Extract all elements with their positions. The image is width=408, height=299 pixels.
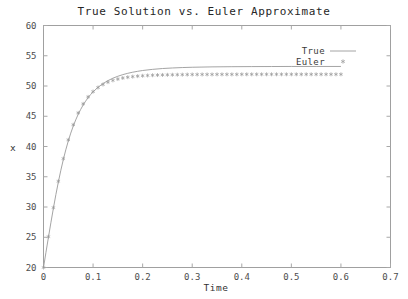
plot-frame <box>44 26 391 268</box>
euler-data-point <box>126 75 129 79</box>
euler-data-point <box>62 157 65 161</box>
euler-data-point <box>156 73 159 77</box>
chart-canvas: True Solution vs. Euler Approximate 00.1… <box>0 0 408 299</box>
euler-data-point <box>260 72 263 76</box>
euler-data-point <box>131 75 134 79</box>
x-axis-title: Time <box>204 282 229 293</box>
y-tick-label: 55 <box>26 51 37 61</box>
x-tick-label: 0 <box>41 272 46 282</box>
euler-data-point <box>309 72 312 76</box>
euler-data-point <box>220 72 223 76</box>
series-euler-points <box>42 72 343 269</box>
euler-data-point <box>225 72 228 76</box>
legend-label-euler: Euler <box>296 57 325 67</box>
x-axis-tick-labels: 00.10.20.30.40.50.60.7 <box>41 272 399 282</box>
euler-data-point <box>230 72 233 76</box>
x-tick-label: 0.3 <box>184 272 200 282</box>
euler-data-point <box>166 73 169 77</box>
y-tick-label: 30 <box>26 202 37 212</box>
x-tick-label: 0.2 <box>135 272 151 282</box>
euler-data-point <box>52 206 55 210</box>
euler-data-point <box>176 73 179 77</box>
x-tick-label: 0.5 <box>283 272 299 282</box>
y-axis-title: x <box>10 142 16 153</box>
euler-data-point <box>334 72 337 76</box>
euler-data-point <box>161 73 164 77</box>
legend-sample-asterisk <box>341 59 345 63</box>
euler-data-point <box>285 72 288 76</box>
euler-data-point <box>290 72 293 76</box>
y-axis-tick-labels: 202530354045505560 <box>26 21 37 273</box>
euler-data-point <box>205 72 208 76</box>
euler-data-point <box>195 73 198 77</box>
euler-data-point <box>151 73 154 77</box>
x-tick-label: 0.7 <box>382 272 398 282</box>
euler-data-point <box>136 74 139 78</box>
euler-data-point <box>235 72 238 76</box>
euler-data-point <box>339 72 342 76</box>
y-tick-label: 20 <box>26 263 37 273</box>
x-tick-label: 0.6 <box>333 272 349 282</box>
euler-data-point <box>319 72 322 76</box>
x-tick-label: 0.1 <box>85 272 101 282</box>
euler-data-point <box>210 72 213 76</box>
legend-label-true: True <box>302 46 325 56</box>
x-axis-ticks <box>44 26 391 268</box>
euler-data-point <box>255 72 258 76</box>
euler-data-point <box>186 73 189 77</box>
euler-data-point <box>215 72 218 76</box>
euler-data-point <box>300 72 303 76</box>
euler-data-point <box>190 73 193 77</box>
euler-data-point <box>200 72 203 76</box>
euler-data-point <box>57 179 60 183</box>
y-tick-label: 45 <box>26 111 37 121</box>
x-tick-label: 0.4 <box>234 272 250 282</box>
euler-data-point <box>146 73 149 77</box>
euler-data-point <box>270 72 273 76</box>
plot-area: 00.10.20.30.40.50.60.7 20253035404550556… <box>0 0 408 299</box>
euler-data-point <box>324 72 327 76</box>
y-axis-ticks <box>44 26 391 268</box>
euler-data-point <box>106 80 109 84</box>
euler-data-point <box>171 73 174 77</box>
euler-data-point <box>265 72 268 76</box>
euler-data-point <box>275 72 278 76</box>
legend: TrueEuler <box>296 46 356 66</box>
euler-data-point <box>47 235 50 239</box>
y-tick-label: 35 <box>26 172 37 182</box>
euler-data-point <box>250 72 253 76</box>
y-tick-label: 25 <box>26 232 37 242</box>
euler-data-point <box>240 72 243 76</box>
euler-data-point <box>329 72 332 76</box>
euler-data-point <box>116 77 119 81</box>
y-tick-label: 50 <box>26 81 37 91</box>
euler-data-point <box>305 72 308 76</box>
y-tick-label: 40 <box>26 142 37 152</box>
euler-data-point <box>314 72 317 76</box>
euler-data-point <box>280 72 283 76</box>
euler-data-point <box>245 72 248 76</box>
euler-data-point <box>121 76 124 80</box>
euler-data-point <box>295 72 298 76</box>
euler-data-point <box>141 74 144 78</box>
euler-data-point <box>181 73 184 77</box>
y-tick-label: 60 <box>26 21 37 31</box>
